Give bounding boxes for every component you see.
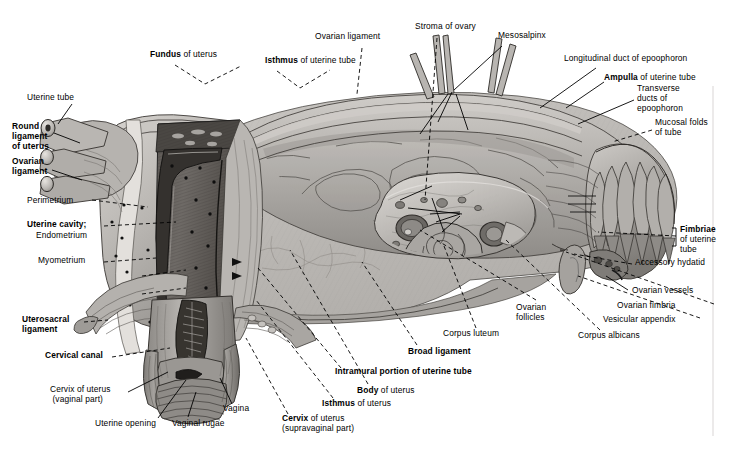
label-ampulla-of-uterine-tube: Ampulla of uterine tube xyxy=(604,73,696,83)
label-uterine-opening: Uterine opening xyxy=(95,419,156,429)
label-intramural-portion-of-uterine-tube: Intramural portion of uterine tube xyxy=(335,367,472,377)
label-longitudinal-duct-of-epoophoron: Longitudinal duct of epoophoron xyxy=(564,54,687,64)
label-corpus-albicans: Corpus albicans xyxy=(578,331,640,341)
label-ovarian-ligament-top: Ovarian ligament xyxy=(315,32,380,42)
label-fimbriae-sub: of uterinetube xyxy=(680,235,716,255)
label-stroma-of-ovary: Stroma of ovary xyxy=(415,22,476,32)
label-vaginal-rugae: Vaginal rugae xyxy=(172,419,225,429)
label-endometrium: Endometrium xyxy=(36,231,87,241)
label-body-of-uterus: Body of uterus xyxy=(357,386,415,396)
label-ovarian-vessels: Ovarian vessels xyxy=(632,286,693,296)
label-round-ligament-of-uterus: Roundligamentof uterus xyxy=(12,122,49,151)
label-uterine-tube: Uterine tube xyxy=(27,93,74,103)
label-transverse-ducts-of-epoophoron: Transverseducts ofepoophoron xyxy=(637,84,683,113)
label-myometrium: Myometrium xyxy=(38,256,85,266)
label-isthmus-of-uterus: Isthmus of uterus xyxy=(322,399,391,409)
label-mucosal-folds-of-tube: Mucosal foldsof tube xyxy=(655,118,708,138)
label-cervix-of-uterus-vaginal-part: Cervix of uterus (vaginal part) xyxy=(50,385,111,405)
figure-canvas: Uterine tube Roundligamentof uterus Ovar… xyxy=(0,0,731,458)
label-corpus-luteum: Corpus luteum xyxy=(443,329,499,339)
label-uterine-cavity: Uterine cavity; xyxy=(27,220,87,230)
label-accessory-hydatid: Accessory hydatid xyxy=(635,258,705,268)
label-ovarian-follicles: Ovarianfollicles xyxy=(516,303,546,323)
label-mesosalpinx: Mesosalpinx xyxy=(498,31,546,41)
label-ovarian-fimbria: Ovarian fimbria xyxy=(617,301,676,311)
label-vagina: Vagina xyxy=(223,404,249,414)
label-perimetrium: Perimetrium xyxy=(27,196,73,206)
label-cervix-of-uterus-supravaginal-part: Cervix of uterus(supravaginal part) xyxy=(282,414,354,434)
label-uterosacral-ligament: Uterosacralligament xyxy=(22,315,69,335)
label-isthmus-of-uterine-tube: Isthmus of uterine tube xyxy=(265,56,356,66)
label-fundus-of-uterus: Fundus of uterus xyxy=(150,50,217,60)
label-vesicular-appendix: Vesicular appendix xyxy=(603,315,675,325)
label-ovarian-ligament-left: Ovarianligament xyxy=(12,157,47,177)
label-cervical-canal: Cervical canal xyxy=(45,351,103,361)
label-broad-ligament: Broad ligament xyxy=(408,347,471,357)
